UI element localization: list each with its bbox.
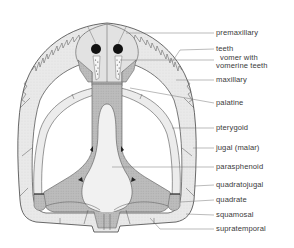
label-palatine: palatine xyxy=(216,99,243,107)
label-vomerine-teeth: vomerine teeth xyxy=(216,62,268,70)
label-quadrate: quadrate xyxy=(216,196,247,204)
label-squamosal: squamosal xyxy=(216,211,254,219)
label-supratemporal: supratemporal xyxy=(216,225,266,233)
label-parasphenoid: parasphenoid xyxy=(216,163,263,171)
label-maxillary: maxillary xyxy=(216,76,247,84)
skull-palate-diagram: premaxillary teeth vomer with vomerine t… xyxy=(0,0,294,248)
label-teeth: teeth xyxy=(216,45,233,53)
vomer-region xyxy=(76,24,139,86)
label-pterygoid: pterygoid xyxy=(216,124,248,132)
label-quadratojugal: quadratojugal xyxy=(216,181,263,189)
left-naris xyxy=(91,44,101,54)
right-naris xyxy=(113,44,123,54)
label-premaxillary: premaxillary xyxy=(216,29,258,37)
label-jugal: jugal (malar) xyxy=(216,144,260,152)
